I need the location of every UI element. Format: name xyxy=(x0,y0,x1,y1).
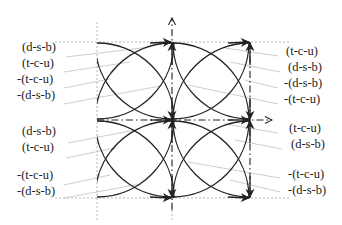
diagram-canvas: (d-s-b)(t-c-u)-(t-c-u)-(d-s-b)(d-s-b)(t-… xyxy=(0,0,342,225)
right-label: -(t-c-u) xyxy=(284,93,320,106)
arc-curves xyxy=(20,0,327,225)
right-label: -(t-c-u) xyxy=(288,168,324,181)
left-label: (d-s-b) xyxy=(22,41,56,54)
left-label: -(t-c-u) xyxy=(17,73,53,86)
left-label: (t-c-u) xyxy=(22,57,54,70)
right-label: (t-c-u) xyxy=(289,122,321,135)
left-label: -(d-s-b) xyxy=(17,185,55,198)
left-label: -(d-s-b) xyxy=(17,89,55,102)
left-label: (d-s-b) xyxy=(22,125,56,138)
right-label: -(d-s-b) xyxy=(288,184,326,197)
right-label: -(d-s-b) xyxy=(284,77,322,90)
left-label: (t-c-u) xyxy=(22,141,54,154)
right-label: (d-s-b) xyxy=(288,61,322,74)
right-label: (t-c-u) xyxy=(286,45,318,58)
right-label: (d-s-b) xyxy=(291,138,325,151)
left-label: -(t-c-u) xyxy=(17,169,53,182)
